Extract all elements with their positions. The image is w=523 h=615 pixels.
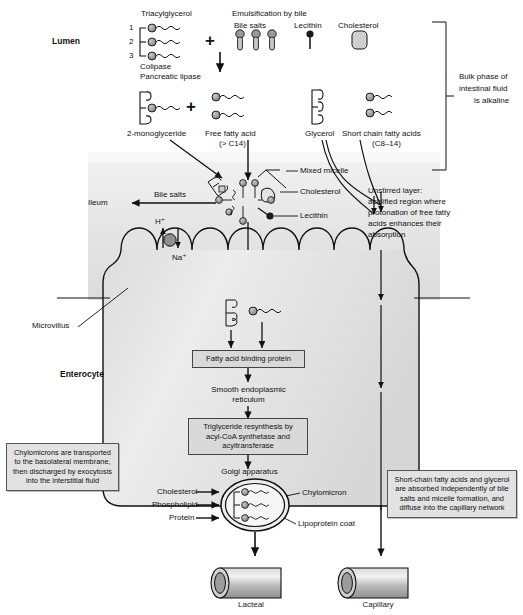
glycerol-glyph [312, 90, 323, 124]
short-chain-fatty-acids-label: Short chain fatty acids [342, 129, 421, 139]
free-fatty-acid-glyphs [212, 93, 244, 119]
lipoprotein-coat-label: Lipoprotein coat [298, 519, 355, 529]
resynthesis-line2: acyl-CoA synthetase and [193, 432, 303, 442]
right-note-line1: Short-chain fatty acids and glycerol [391, 475, 513, 484]
short-chain-fatty-acids-sublabel: (C8–14) [372, 139, 401, 149]
triacylglycerol-title: Triacylglycerol [141, 9, 192, 19]
lacteal-label: Lacteal [211, 600, 291, 609]
unstirred-layer-line1: Unstirred layer: [368, 186, 422, 196]
bulk-phase-line3: is alkaline [474, 96, 509, 106]
resynthesis-line3: acyltransferase [193, 441, 303, 451]
bile-salt-glyphs [236, 30, 276, 50]
capillary-vessel [338, 568, 408, 598]
chylomicron-glyph [221, 479, 289, 531]
right-note-line4: diffuse into the capillary network [391, 503, 513, 512]
right-note-line2: are absorbed independently of bile [391, 484, 513, 493]
figure-canvas: Lumen Enterocyte Ileum Microvillus Triac… [0, 0, 523, 615]
chylomicron-input-protein: Protein [169, 513, 194, 523]
pancreatic-lipase-label: Pancreatic lipase [140, 72, 201, 82]
colipase-label: Colipase [140, 62, 171, 72]
short-chain-fatty-acid-glyphs [366, 93, 392, 117]
golgi-apparatus-label: Golgi apparatus [207, 467, 292, 477]
proton-label: H⁺ [155, 217, 165, 227]
left-note-line3: then discharged by exocytosis [10, 467, 115, 476]
left-note-line1: Chylomicrons are transported [10, 448, 115, 457]
resynthesis-line1: Triglyceride resynthesis by [193, 422, 303, 432]
glycerol-label: Glycerol [305, 129, 334, 139]
chylomicron-transport-note: Chylomicrons are transported to the baso… [6, 443, 119, 491]
plus-sign-2: + [186, 98, 196, 115]
cholesterol-label: Cholesterol [338, 21, 378, 31]
micelle-lecithin-label: Lecithin [300, 211, 328, 221]
monoglyceride-label: 2-monoglyceride [127, 129, 186, 139]
tag-position-1: 1 [129, 23, 133, 33]
chylomicron-label: Chylomicron [302, 488, 346, 498]
triacylglycerol-chains [148, 24, 180, 60]
mixed-micelle-label: Mixed micelle [300, 166, 348, 176]
tag-position-3: 3 [129, 51, 133, 61]
bulk-phase-line1: Bulk phase of [459, 72, 507, 82]
unstirred-layer-line5: absorption [368, 230, 405, 240]
chylomicron-input-phospholipid: Phospholipid [152, 500, 198, 510]
left-note-line4: into the interstitial fluid [10, 476, 115, 485]
bile-salts-label: Bile salts [234, 21, 266, 31]
chylomicron-input-cholesterol: Cholesterol [157, 487, 197, 497]
microvillus-label: Microvillus [32, 321, 69, 331]
tag-position-2: 2 [129, 37, 133, 47]
unstirred-layer-line3: protonation of free fatty [368, 208, 450, 218]
smooth-er-line2: reticulum [196, 395, 301, 405]
unstirred-layer-line2: acidified region where [368, 197, 446, 207]
lumen-label: Lumen [52, 36, 80, 46]
bile-salts-recycle-label: Bile salts [154, 190, 186, 200]
enterocyte-label: Enterocyte [60, 369, 104, 379]
lecithin-glyph [306, 30, 313, 49]
nhe-transporter-glyph [164, 234, 176, 246]
emulsification-title: Emulsification by bile [232, 9, 307, 19]
free-fatty-acid-label: Free fatty acid [205, 129, 256, 139]
lecithin-label: Lecithin [294, 21, 322, 31]
bulk-phase-line2: intestinal fluid [459, 84, 507, 94]
cholesterol-glyph [352, 31, 367, 49]
free-fatty-acid-sublabel: (> C14) [219, 139, 246, 149]
micelle-cholesterol-label: Cholesterol [300, 187, 340, 197]
unstirred-layer-line4: acids enhances their [368, 219, 441, 229]
diagram-graphics [0, 0, 523, 615]
smooth-er-line1: Smooth endoplasmic [196, 385, 301, 395]
plus-sign-1: + [205, 32, 215, 49]
right-note-line3: salts and micelle formation, and [391, 494, 513, 503]
lacteal-vessel [211, 568, 290, 598]
short-chain-absorption-note: Short-chain fatty acids and glycerol are… [387, 470, 517, 518]
fatty-acid-binding-protein-box: Fatty acid binding protein [192, 350, 305, 368]
ileum-label: Ileum [88, 198, 108, 208]
left-note-line2: to the basolateral membrane, [10, 457, 115, 466]
triglyceride-resynthesis-box: Triglyceride resynthesis by acyl-CoA syn… [188, 418, 308, 455]
capillary-label: Capillary [338, 600, 418, 609]
sodium-label: Na⁺ [172, 253, 186, 263]
